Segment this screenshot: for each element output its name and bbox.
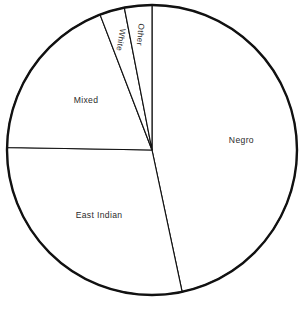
pie-chart-figure: NegroEast IndianMixedWhiteOther bbox=[0, 0, 305, 309]
pie-slice-label-east-indian: East Indian bbox=[76, 210, 123, 220]
pie-slice-label-mixed: Mixed bbox=[74, 95, 99, 105]
pie-slices-group bbox=[7, 5, 297, 295]
pie-slice-label-negro: Negro bbox=[229, 135, 254, 145]
pie-slice-negro[interactable] bbox=[152, 5, 297, 292]
pie-chart-svg: NegroEast IndianMixedWhiteOther bbox=[0, 0, 305, 309]
pie-slice-east-indian[interactable] bbox=[7, 147, 182, 295]
